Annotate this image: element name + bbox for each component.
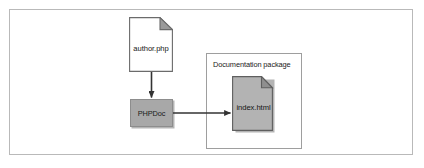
documentation-package-title: Documentation package — [213, 60, 291, 69]
phpdoc-process-label: PHPDoc — [131, 109, 172, 118]
index-html-document: index.html — [232, 76, 275, 133]
author-php-document-label: author.php — [129, 44, 173, 53]
author-php-document: author.php — [129, 17, 173, 72]
diagram-figure: Documentation package index.html author.… — [0, 0, 424, 168]
index-html-document-label: index.html — [232, 103, 275, 112]
phpdoc-process-box: PHPDoc — [130, 99, 173, 127]
